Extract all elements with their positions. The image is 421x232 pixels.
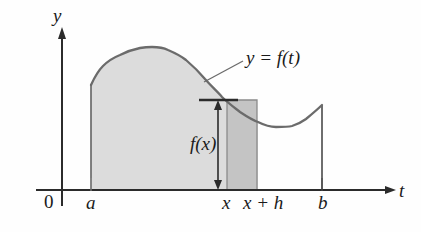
height-annotation-label: f(x)	[190, 134, 216, 153]
curve-annotation-label: y = f(t)	[246, 48, 300, 67]
tick-label-b: b	[318, 193, 328, 212]
tick-label-x: x	[222, 193, 230, 212]
tick-label-a: a	[86, 193, 96, 212]
y-axis-label: y	[53, 6, 61, 25]
y-axis-arrowhead	[58, 27, 66, 39]
t-axis-label: t	[399, 181, 404, 200]
curve-label-leader-line	[204, 61, 243, 82]
tick-label-x-plus-h: x + h	[243, 193, 283, 212]
t-axis-arrowhead	[385, 186, 396, 194]
diagram-canvas	[0, 0, 421, 232]
figure-container: y t 0 a x x + h b f(x) y = f(t)	[0, 0, 421, 232]
origin-label: 0	[44, 192, 54, 211]
